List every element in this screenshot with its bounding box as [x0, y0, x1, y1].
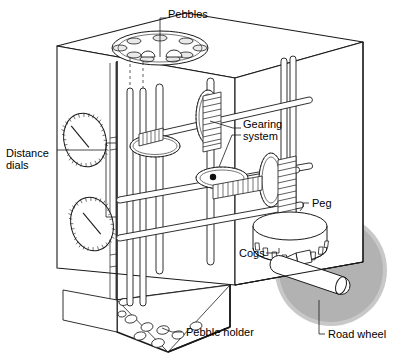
label-road-wheel: Road wheel	[328, 328, 386, 340]
gear-middle-hub	[210, 174, 216, 180]
pebble-holder	[63, 285, 230, 352]
shaft-mid-front	[156, 84, 163, 274]
label-gearing-line2: system	[243, 130, 278, 142]
hopper-left-flange	[63, 290, 117, 332]
illustration-canvas: Pebbles Gearing system Distance dials Pe…	[0, 0, 393, 363]
label-cogs: Cogs	[239, 247, 265, 259]
label-gearing-line1: Gearing	[243, 118, 282, 130]
label-distance-dials: Distance dials	[6, 147, 52, 171]
label-pebbles: Pebbles	[168, 8, 208, 20]
label-distance-line1: Distance	[6, 147, 49, 159]
odometer-cutaway-diagram: Pebbles Gearing system Distance dials Pe…	[0, 0, 393, 363]
label-distance-line2: dials	[6, 159, 29, 171]
label-peg: Peg	[312, 197, 332, 209]
label-pebble-holder: Pebble holder	[186, 326, 254, 338]
